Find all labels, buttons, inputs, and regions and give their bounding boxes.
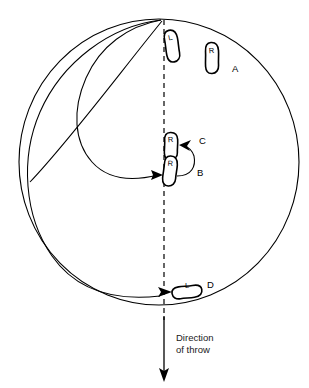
path-B-to-C-curve — [177, 146, 194, 176]
footprint-D-left: L — [170, 278, 203, 301]
path-to-B-curve — [77, 20, 161, 178]
arrowhead-B-to-C — [179, 140, 191, 151]
label-D: D — [207, 279, 214, 290]
footprint-A-left: L — [162, 29, 182, 63]
footprint-A-right: R — [204, 42, 220, 74]
path-to-D-curve — [28, 20, 162, 297]
label-B: B — [197, 167, 203, 178]
arrowhead-to-D — [158, 287, 172, 297]
arrowhead-to-B — [151, 170, 163, 180]
label-A: A — [232, 63, 239, 74]
footprint-B-right: R — [162, 156, 178, 187]
throwing-circle — [19, 19, 299, 305]
footprint-D-left-letter: L — [185, 281, 189, 290]
footprint-C-right-letter: R — [168, 135, 174, 144]
footprint-B-right-letter: R — [167, 159, 173, 168]
throw-diagram-svg: L R R R L A C B D Direction — [0, 0, 309, 388]
label-C: C — [199, 135, 206, 146]
caption-line-2: of throw — [176, 344, 210, 355]
caption-line-1: Direction — [176, 332, 214, 343]
figure-container: L R R R L A C B D Direction — [0, 0, 309, 388]
